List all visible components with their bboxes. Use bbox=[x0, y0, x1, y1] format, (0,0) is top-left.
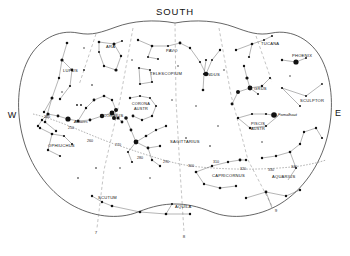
constellation-label-aquila: AQUILA bbox=[175, 204, 192, 209]
star-label-fomalhaut: Fomalhaut bbox=[278, 112, 298, 117]
constellation-label-ara: ARA bbox=[106, 44, 115, 49]
constellation-label-telescopium: TELESCOPIUM bbox=[150, 71, 182, 76]
ra-tick-250: 250 bbox=[68, 126, 74, 130]
constellation-label-capricornus: CAPRICORNUS bbox=[212, 173, 245, 178]
ra-tick-240: 240 bbox=[44, 115, 50, 119]
cardinal-east: E bbox=[335, 108, 341, 118]
constellation-label-scutum: SCUTUM bbox=[98, 195, 117, 200]
constellation-label-grus: GRUS bbox=[254, 86, 267, 91]
label-layer: SOUTH W E LUPUS ARA PAVO TUCANA PHOENIX … bbox=[8, 6, 341, 239]
constellation-label-piscis-austr-line2: AUSTR bbox=[251, 126, 265, 131]
hour-label-8: 8 bbox=[183, 234, 186, 239]
ra-tick-340: 340 bbox=[291, 165, 297, 169]
constellation-label-aquarius: AQUARIUS bbox=[272, 174, 295, 179]
hour-label-7: 7 bbox=[95, 230, 98, 235]
ra-tick-310: 310 bbox=[213, 160, 219, 164]
star-label-antares: Antares bbox=[73, 119, 88, 124]
ra-tick-300: 300 bbox=[188, 164, 194, 168]
cardinal-south: SOUTH bbox=[156, 6, 194, 17]
constellation-label-scorpius: SCORPIUS bbox=[100, 113, 123, 118]
constellation-label-indus: INDUS bbox=[206, 72, 220, 77]
constellation-label-sagittarius: SAGITTARIUS bbox=[170, 139, 200, 144]
constellation-label-ophiuchus: OPHIUCHUS bbox=[48, 143, 75, 148]
ra-tick-290: 290 bbox=[163, 160, 169, 164]
constellation-label-phoenix: PHOENIX bbox=[292, 53, 312, 58]
star-field bbox=[37, 35, 323, 215]
hour-angle-lines bbox=[79, 23, 272, 232]
ra-tick-330: 330 bbox=[268, 168, 274, 172]
constellation-label-corona-austr-line2: AUSTR bbox=[134, 106, 148, 111]
ra-tick-270: 270 bbox=[115, 143, 121, 147]
constellation-label-lupus: LUPUS bbox=[63, 68, 78, 73]
star-chart: SOUTH W E LUPUS ARA PAVO TUCANA PHOENIX … bbox=[0, 0, 350, 256]
cardinal-west: W bbox=[8, 110, 17, 120]
ra-tick-320: 320 bbox=[240, 167, 246, 171]
ra-tick-260: 260 bbox=[87, 139, 93, 143]
constellation-label-tucana: TUCANA bbox=[261, 41, 279, 46]
constellation-label-pavo: PAVO bbox=[166, 48, 178, 53]
constellation-label-sculptor: SCULPTOR bbox=[300, 98, 324, 103]
ra-tick-280: 280 bbox=[137, 156, 143, 160]
hour-label-9: 9 bbox=[275, 208, 278, 213]
constellation-lines bbox=[38, 36, 322, 214]
